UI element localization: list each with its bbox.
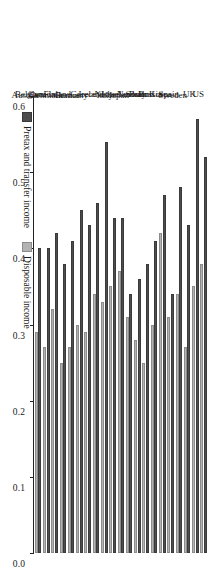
bar-pretax <box>63 264 66 553</box>
axis-tick <box>30 96 34 97</box>
bar-pretax <box>55 233 58 553</box>
bar-disposable <box>68 347 71 553</box>
legend-entry: Disposable income <box>22 242 32 329</box>
bar-disposable <box>60 363 63 553</box>
bar-pretax <box>187 225 190 553</box>
category-axis: AustriaBelgiumCanadaDenmarkFinlandFrance… <box>34 0 208 96</box>
bar-pretax <box>146 264 149 553</box>
bar-pretax <box>121 218 124 553</box>
axis-tick-label: 0.6 <box>13 102 25 112</box>
bar-disposable <box>176 294 179 553</box>
plot-area <box>34 96 208 553</box>
axis-tick-label: 0.0 <box>13 559 25 569</box>
bar-pretax <box>96 203 99 553</box>
bar-disposable <box>167 317 170 553</box>
axis-tick-label: 0.3 <box>13 331 25 341</box>
bar-pretax <box>129 294 132 553</box>
axis-tick <box>30 553 34 554</box>
bar-pretax <box>113 218 116 553</box>
bar-disposable <box>142 363 145 553</box>
bar-pretax <box>105 142 108 553</box>
bar-pretax <box>196 119 199 553</box>
bar-disposable <box>35 332 38 553</box>
axis-tick-label: 0.1 <box>13 483 25 493</box>
legend-swatch-icon <box>22 242 32 252</box>
bar-disposable <box>134 340 137 553</box>
bar-pretax <box>88 225 91 553</box>
bar-disposable <box>159 233 162 553</box>
legend-entry: Pretax and transfer income <box>22 112 32 228</box>
bar-disposable <box>101 302 104 553</box>
legend-label: Pretax and transfer income <box>22 126 32 228</box>
bar-pretax <box>163 195 166 553</box>
bar-disposable <box>200 264 203 553</box>
bar-pretax <box>204 157 207 553</box>
axis-tick <box>30 401 34 402</box>
bar-pretax <box>171 294 174 553</box>
bar-disposable <box>51 309 54 553</box>
bar-disposable <box>184 347 187 553</box>
bar-pretax <box>179 187 182 553</box>
bar-pretax <box>154 241 157 553</box>
axis-tick <box>30 477 34 478</box>
bar-pretax <box>80 210 83 553</box>
axis-tick-label: 0.2 <box>13 407 25 417</box>
bar-disposable <box>84 332 87 553</box>
bar-disposable <box>192 286 195 553</box>
bar-disposable <box>43 347 46 553</box>
legend-swatch-icon <box>22 112 32 122</box>
bar-pretax <box>138 279 141 553</box>
bar-pretax <box>47 248 50 553</box>
bar-disposable <box>151 325 154 554</box>
bar-disposable <box>93 294 96 553</box>
bar-pretax <box>38 248 41 553</box>
legend-label: Disposable income <box>22 256 32 329</box>
bar-disposable <box>76 325 79 554</box>
chart-legend: Pretax and transfer incomeDisposable inc… <box>22 112 32 329</box>
bar-pretax <box>71 241 74 553</box>
bar-disposable <box>118 271 121 553</box>
bar-disposable <box>126 317 129 553</box>
bar-disposable <box>109 286 112 553</box>
